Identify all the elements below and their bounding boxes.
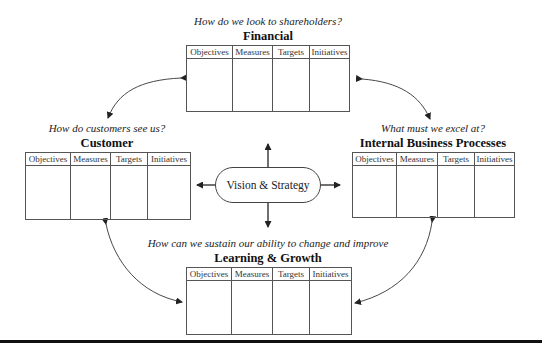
curved-arrow-financial-customer [108,78,181,118]
bottom-rule-divider [0,340,542,343]
column-header: Objectives [187,268,232,281]
targets-cell [111,166,148,220]
learning-title: Learning & Growth [214,251,321,266]
objectives-cell [26,166,71,220]
column-header: Measures [232,268,273,281]
column-header: Measures [233,46,273,59]
objectives-cell [187,59,233,112]
column-header: Measures [397,153,438,166]
objectives-cell [187,281,232,335]
internal-question: What must we excel at? [381,122,485,134]
curved-arrow-customer-learning [106,224,182,302]
column-header: Objectives [353,153,397,166]
column-header: Targets [273,268,310,281]
targets-cell [438,166,475,218]
initiatives-cell [310,281,352,335]
learning-question: How can we sustain our ability to change… [148,237,389,249]
internal-table: Objectives Measures Targets Initiatives [352,152,515,218]
customer-table: Objectives Measures Targets Initiatives [25,152,191,220]
customer-title: Customer [81,136,134,151]
column-header: Targets [273,46,310,59]
objectives-cell [353,166,397,218]
measures-cell [397,166,438,218]
internal-title: Internal Business Processes [360,136,506,151]
column-header: Initiatives [148,153,191,166]
measures-cell [233,59,273,112]
financial-question: How do we look to shareholders? [194,15,342,27]
column-header: Objectives [187,46,233,59]
column-header: Objectives [26,153,71,166]
initiatives-cell [148,166,191,220]
financial-table: Objectives Measures Targets Initiatives [186,45,350,112]
financial-title: Financial [243,29,293,44]
column-header: Initiatives [310,268,352,281]
measures-cell [232,281,273,335]
vision-strategy-node: Vision & Strategy [215,167,321,203]
targets-cell [273,281,310,335]
learning-table: Objectives Measures Targets Initiatives [186,267,352,335]
measures-cell [71,166,111,220]
curved-arrow-financial-internal [362,79,430,119]
column-header: Targets [111,153,148,166]
curved-arrow-internal-learning [355,222,432,303]
column-header: Measures [71,153,111,166]
initiatives-cell [310,59,350,112]
column-header: Initiatives [310,46,350,59]
initiatives-cell [475,166,515,218]
column-header: Initiatives [475,153,515,166]
customer-question: How do customers see us? [49,122,166,134]
column-header: Targets [438,153,475,166]
targets-cell [273,59,310,112]
